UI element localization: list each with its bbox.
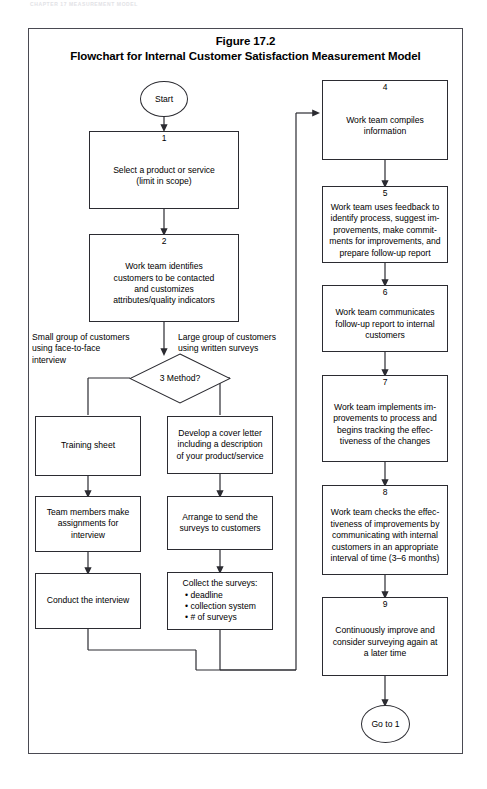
node-collect-surveys[interactable]: Collect the surveys: • deadline • collec… [167, 572, 273, 630]
node-7-number: 7 [383, 377, 388, 388]
node-9[interactable]: 9 Continuously improve and consider surv… [322, 597, 448, 676]
node-1[interactable]: 1 Select a product or service (limit in … [89, 131, 239, 209]
node-2-text: Work team identifies customers to be con… [90, 247, 238, 321]
edge-label-right-branch: Large group of customers using written s… [178, 332, 276, 355]
node-3-decision[interactable]: 3 Method? [129, 353, 231, 404]
page-running-header: CHAPTER 17 MEASUREMENT MODEL [30, 1, 138, 7]
node-8-number: 8 [383, 487, 388, 498]
node-4[interactable]: 4 Work team compiles information [322, 80, 448, 160]
node-cover-letter-text: Develop a cover letter including a descr… [168, 417, 272, 473]
node-7[interactable]: 7 Work team implements im- provements to… [322, 375, 448, 462]
node-2[interactable]: 2 Work team identifies customers to be c… [89, 234, 239, 322]
node-goto-1[interactable]: Go to 1 [361, 705, 410, 743]
node-arrange-surveys-text: Arrange to send the surveys to customers [168, 497, 272, 549]
node-collect-surveys-text: Collect the surveys: • deadline • collec… [168, 573, 272, 629]
node-8-text: Work team checks the effec- tiveness of … [323, 498, 447, 574]
node-3-number: 3 [160, 373, 165, 383]
node-4-text: Work team compiles information [323, 93, 447, 159]
node-cover-letter[interactable]: Develop a cover letter including a descr… [167, 416, 273, 474]
node-arrange-surveys[interactable]: Arrange to send the surveys to customers [167, 496, 273, 550]
node-6-text: Work team communicates follow-up report … [323, 298, 447, 351]
node-8[interactable]: 8 Work team checks the effec- tiveness o… [322, 485, 448, 575]
node-2-number: 2 [162, 236, 167, 247]
node-9-number: 9 [383, 599, 388, 610]
node-team-assignments[interactable]: Team members make assignments for interv… [35, 496, 141, 552]
figure-caption: Flowchart for Internal Customer Satisfac… [28, 49, 463, 64]
node-1-number: 1 [162, 133, 167, 144]
node-conduct-interview-text: Conduct the interview [36, 574, 140, 628]
node-5-number: 5 [383, 188, 388, 199]
node-1-text: Select a product or service (limit in sc… [90, 144, 238, 208]
node-6[interactable]: 6 Work team communicates follow-up repor… [322, 285, 448, 352]
node-4-number: 4 [383, 82, 388, 93]
node-9-text: Continuously improve and consider survey… [323, 610, 447, 675]
node-5-text: Work team uses feedback to identify proc… [323, 199, 447, 262]
node-training-sheet[interactable]: Training sheet [35, 416, 141, 476]
node-5[interactable]: 5 Work team uses feedback to identify pr… [322, 186, 448, 263]
node-start[interactable]: Start [140, 81, 188, 117]
edge-label-left-branch: Small group of customers using face-to-f… [32, 332, 129, 366]
node-6-number: 6 [383, 287, 388, 298]
figure-container: CHAPTER 17 MEASUREMENT MODEL Figure 17.2… [0, 0, 487, 789]
node-training-sheet-text: Training sheet [36, 417, 140, 475]
node-goto-1-label: Go to 1 [371, 719, 399, 729]
figure-number: Figure 17.2 [216, 35, 276, 47]
figure-title: Figure 17.2 Flowchart for Internal Custo… [28, 34, 463, 64]
node-7-text: Work team implements im- provements to p… [323, 388, 447, 461]
node-team-assignments-text: Team members make assignments for interv… [36, 497, 140, 551]
node-conduct-interview[interactable]: Conduct the interview [35, 573, 141, 629]
node-start-label: Start [155, 94, 173, 104]
node-3-text: 3 Method? [160, 373, 201, 384]
